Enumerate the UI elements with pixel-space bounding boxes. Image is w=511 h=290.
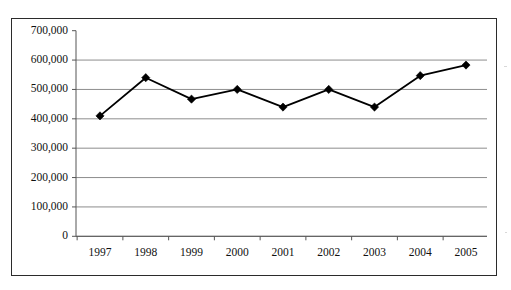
x-axis-tick-label: 2004: [396, 247, 444, 259]
y-axis-tick-label: 0: [0, 230, 68, 242]
x-axis-tick-label: 1999: [168, 247, 216, 259]
chart-figure: 0100,000200,000300,000400,000500,000600,…: [0, 0, 511, 290]
y-axis-tick-label: 500,000: [0, 83, 68, 95]
data-point-marker: [233, 85, 241, 93]
x-axis-tick-label: 2002: [305, 247, 353, 259]
scan-speck: [505, 232, 507, 233]
x-axis-tick-label: 1997: [76, 247, 124, 259]
data-point-marker: [462, 61, 470, 69]
y-axis-tick-label: 700,000: [0, 25, 68, 37]
data-point-marker: [325, 85, 333, 93]
data-point-marker: [279, 103, 287, 111]
x-axis-tick-label: 2005: [442, 247, 490, 259]
data-point-marker: [187, 95, 195, 103]
x-axis-group: [76, 236, 487, 240]
gridlines-group: [76, 60, 487, 236]
scan-speck: [504, 66, 507, 67]
y-axis-tick-label: 100,000: [0, 201, 68, 213]
x-axis-tick-label: 2000: [213, 247, 261, 259]
y-axis-group: [72, 31, 76, 237]
x-axis-tick-label: 1998: [122, 247, 170, 259]
y-axis-tick-label: 200,000: [0, 172, 68, 184]
y-axis-tick-label: 400,000: [0, 113, 68, 125]
data-markers-group: [96, 61, 470, 120]
x-axis-tick-label: 2001: [259, 247, 307, 259]
x-axis-tick-label: 2003: [351, 247, 399, 259]
y-axis-tick-label: 300,000: [0, 142, 68, 154]
y-axis-tick-label: 600,000: [0, 54, 68, 66]
